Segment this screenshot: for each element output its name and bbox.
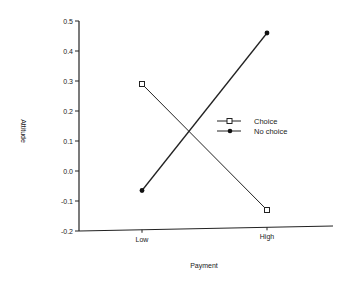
open-square-marker-icon (265, 208, 270, 213)
filled-circle-marker-icon (228, 129, 233, 134)
x-tick-label: Low (136, 236, 150, 243)
y-tick-label: 0.4 (63, 48, 73, 55)
filled-circle-marker-icon (140, 188, 145, 193)
series-line-no-choice (142, 33, 267, 191)
y-tick-group: 0.50.40.30.20.10.0-0.1-0.2 (61, 18, 79, 235)
y-tick-label: 0.1 (63, 138, 73, 145)
open-square-marker-icon (227, 119, 232, 124)
series-line-choice (142, 84, 267, 210)
x-tick-label: High (260, 233, 275, 241)
filled-circle-marker-icon (265, 31, 270, 36)
legend-no-choice-label: No choice (254, 127, 287, 136)
series-group (140, 31, 270, 213)
legend-choice-label: Choice (254, 117, 277, 126)
legend: Choice No choice (217, 117, 287, 136)
y-tick-label: -0.2 (61, 228, 73, 235)
y-tick-label: -0.1 (61, 198, 73, 205)
y-tick-label: 0.3 (63, 78, 73, 85)
x-axis (79, 226, 333, 231)
x-axis-label: Payment (190, 262, 218, 270)
y-tick-label: 0.5 (63, 18, 73, 25)
y-axis-label: Attitude (20, 119, 27, 143)
open-square-marker-icon (140, 82, 145, 87)
y-tick-label: 0.2 (63, 108, 73, 115)
interaction-line-chart: 0.50.40.30.20.10.0-0.1-0.2 LowHigh Attit… (0, 0, 345, 281)
y-tick-label: 0.0 (63, 168, 73, 175)
